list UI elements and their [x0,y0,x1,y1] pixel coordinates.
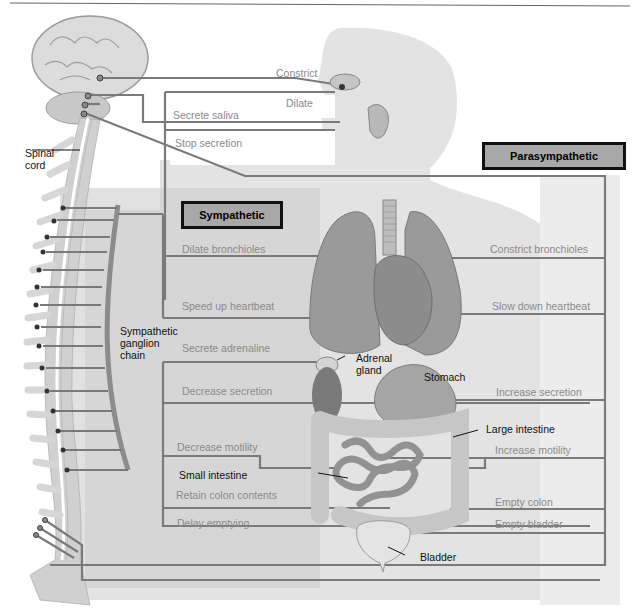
parasympathetic-effect: Increase motility [495,445,571,456]
sympathetic-effect: Delay emptying [177,518,249,529]
secrete-saliva-label: Secrete saliva [173,110,239,121]
label-line: cord [25,159,54,171]
label-line: chain [120,349,178,361]
label-line: gland [356,364,392,376]
constrict-label: Constrict [276,68,317,79]
label-line: Sympathetic [120,325,178,337]
bladder-label: Bladder [420,552,456,563]
parasympathetic-effect: Empty bladder [495,519,563,530]
ganglion-chain-label: Sympathetic ganglion chain [120,325,178,361]
label-line: Spinal [25,147,54,159]
sympathetic-effect: Decrease motility [177,442,258,453]
stop-secretion-label: Stop secretion [175,138,242,149]
sympathetic-effect: Secrete adrenaline [182,343,270,354]
adrenal-gland-label: Adrenal gland [356,352,392,376]
sympathetic-effect: Decrease secretion [182,386,272,397]
sympathetic-effect: Retain colon contents [176,490,277,501]
sympathetic-effect: Dilate bronchioles [182,244,265,255]
parasympathetic-box: Parasympathetic [482,142,626,170]
label-line: ganglion [120,337,178,349]
small-intestine-label: Small intestine [179,470,247,481]
large-intestine-label: Large intestine [486,424,555,435]
sympathetic-effect: Speed up heartbeat [182,301,274,312]
brain-illustration [32,16,148,124]
trachea [383,200,396,255]
parasympathetic-effect: Empty colon [495,497,553,508]
label-line: Adrenal [356,352,392,364]
spinal-cord-label: Spinal cord [25,147,54,171]
parasympathetic-effect: Increase secretion [496,387,582,398]
parasympathetic-effect: Slow down heartbeat [492,301,590,312]
stomach-label: Stomach [424,372,465,383]
parasympathetic-effect: Constrict bronchioles [490,244,588,255]
dilate-label: Dilate [286,98,313,109]
sympathetic-box: Sympathetic [181,201,283,229]
ans-diagram: Sympathetic Parasympathetic Spinal cord … [0,0,637,611]
